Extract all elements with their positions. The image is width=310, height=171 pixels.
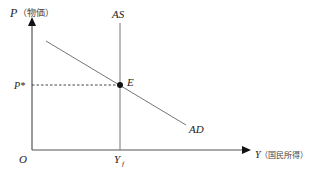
y-axis-label: （物価）: [18, 7, 54, 18]
y-axis-arrow-icon: [28, 17, 36, 26]
ad-as-diagram: P （物価） AS E P* AD O Y f Y （国民所得）: [0, 0, 310, 171]
origin-label: O: [19, 153, 27, 165]
x-axis-label: （国民所得）: [260, 150, 308, 160]
as-label: AS: [111, 8, 125, 20]
ad-label: AD: [188, 123, 204, 135]
full-employment-output-subscript: f: [122, 160, 125, 168]
x-axis-arrow-icon: [242, 146, 251, 154]
equilibrium-point-label: E: [126, 76, 134, 88]
equilibrium-point: [117, 82, 123, 88]
ad-curve: [46, 41, 186, 125]
y-axis-symbol: P: [9, 6, 18, 20]
equilibrium-price-label: P*: [13, 80, 25, 91]
full-employment-output-label: Y: [114, 153, 122, 165]
